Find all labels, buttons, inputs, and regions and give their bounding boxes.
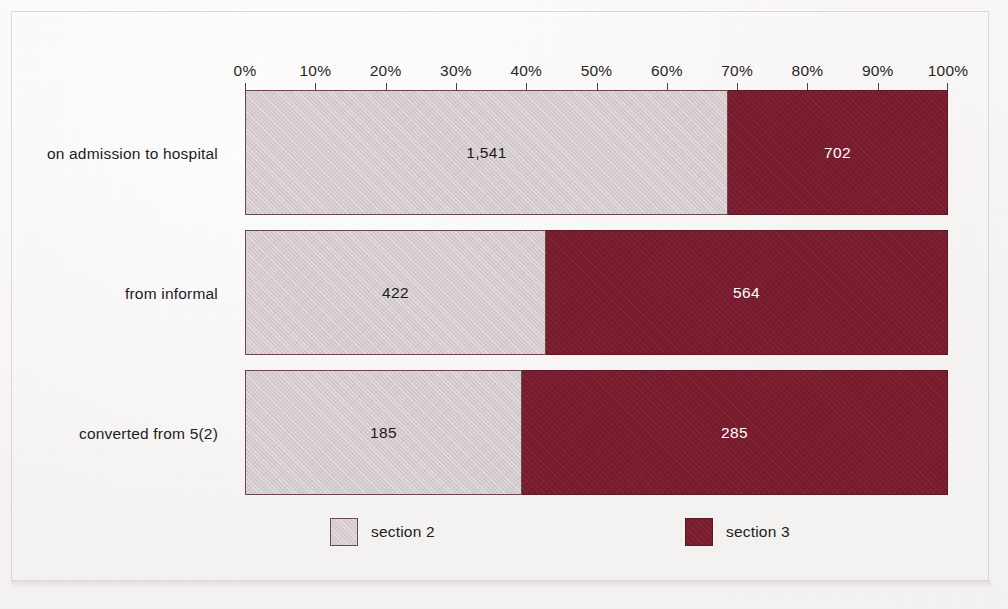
figure-frame-shadow <box>11 581 991 589</box>
x-tick-label-9: 90% <box>862 62 894 80</box>
category-label-converted-from-5-2: converted from 5(2) <box>0 425 218 443</box>
bar-value-label: 185 <box>370 424 397 442</box>
bar-value-label: 1,541 <box>466 144 506 162</box>
bar-value-label: 564 <box>733 284 760 302</box>
x-tick-label-6: 60% <box>651 62 683 80</box>
x-tick-label-5: 50% <box>581 62 613 80</box>
x-tick-label-7: 70% <box>721 62 753 80</box>
legend-item-section-3: section 3 <box>685 518 790 546</box>
bar-segment-section3-row2: 285 <box>522 370 948 495</box>
x-tick-label-8: 80% <box>792 62 824 80</box>
bar-row-from-informal: 422 564 <box>245 230 948 355</box>
x-tick-label-4: 40% <box>510 62 542 80</box>
chart-figure: 0% 10% 20% 30% 40% 50% 60% 70% 80% 90% 1… <box>0 0 1008 609</box>
bar-segment-section3-row0: 702 <box>728 90 948 215</box>
legend-item-section-2: section 2 <box>330 518 435 546</box>
bar-segment-section2-row1: 422 <box>245 230 546 355</box>
legend-swatch-section-3 <box>685 518 713 546</box>
legend-label-section-2: section 2 <box>371 523 435 541</box>
chart-legend: section 2 section 3 <box>245 518 948 552</box>
bar-value-label: 422 <box>382 284 409 302</box>
x-tick-label-1: 10% <box>299 62 331 80</box>
legend-swatch-section-2 <box>330 518 358 546</box>
bar-segment-section3-row1: 564 <box>546 230 948 355</box>
bar-segment-section2-row2: 185 <box>245 370 522 495</box>
plot-area: 1,541 702 422 564 185 285 <box>245 90 948 495</box>
category-label-from-informal: from informal <box>0 285 218 303</box>
x-tick-label-3: 30% <box>440 62 472 80</box>
x-tick-label-2: 20% <box>370 62 402 80</box>
bar-value-label: 285 <box>721 424 748 442</box>
bar-value-label: 702 <box>824 144 851 162</box>
bar-segment-section2-row0: 1,541 <box>245 90 728 215</box>
x-tick-label-0: 0% <box>234 62 257 80</box>
legend-label-section-3: section 3 <box>726 523 790 541</box>
x-axis: 0% 10% 20% 30% 40% 50% 60% 70% 80% 90% 1… <box>245 62 948 90</box>
category-label-on-admission-to-hospital: on admission to hospital <box>0 145 218 163</box>
bar-row-converted-from-5-2: 185 285 <box>245 370 948 495</box>
bar-row-on-admission-to-hospital: 1,541 702 <box>245 90 948 215</box>
x-tick-label-10: 100% <box>928 62 968 80</box>
